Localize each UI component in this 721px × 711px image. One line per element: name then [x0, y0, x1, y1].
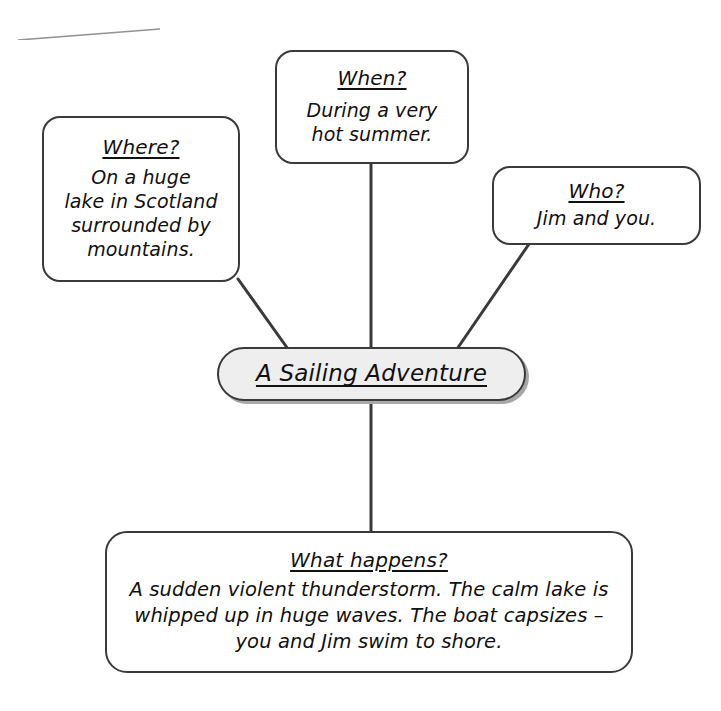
node-central-topic[interactable]: A Sailing Adventure	[217, 347, 526, 401]
node-who[interactable]: Who? Jim and you.	[492, 166, 701, 245]
node-when-body-line: hot summer.	[307, 123, 438, 147]
node-when-title: When?	[337, 67, 406, 91]
node-where-body-line: On a huge	[64, 166, 217, 190]
diagram-canvas: Where? On a huge lake in Scotland surrou…	[0, 0, 721, 711]
node-when[interactable]: When? During a very hot summer.	[275, 50, 469, 164]
central-topic-title: A Sailing Adventure	[256, 360, 487, 387]
node-when-body-line: During a very	[307, 99, 438, 123]
node-where-body-line: lake in Scotland	[64, 190, 217, 214]
node-where-body-line: surrounded by	[64, 214, 217, 238]
node-what-happens[interactable]: What happens? A sudden violent thunderst…	[105, 531, 633, 673]
node-where-body-line: mountains.	[64, 238, 217, 262]
node-what-happens-body: A sudden violent thunderstorm. The calm …	[123, 577, 614, 655]
node-when-body: During a very hot summer.	[301, 99, 444, 147]
node-where[interactable]: Where? On a huge lake in Scotland surrou…	[42, 116, 240, 282]
node-where-body: On a huge lake in Scotland surrounded by…	[58, 166, 223, 262]
node-who-title: Who?	[568, 180, 624, 204]
node-what-happens-body-line: whipped up in huge waves. The boat capsi…	[129, 603, 608, 629]
node-where-title: Where?	[102, 136, 179, 160]
node-who-body: Jim and you.	[531, 207, 662, 231]
node-who-body-line: Jim and you.	[537, 207, 656, 231]
node-what-happens-body-line: A sudden violent thunderstorm. The calm …	[129, 577, 608, 603]
node-what-happens-title: What happens?	[290, 549, 448, 573]
connector-who-to-center	[457, 244, 529, 349]
node-what-happens-body-line: you and Jim swim to shore.	[129, 629, 608, 655]
connector-where-to-center	[238, 279, 288, 349]
